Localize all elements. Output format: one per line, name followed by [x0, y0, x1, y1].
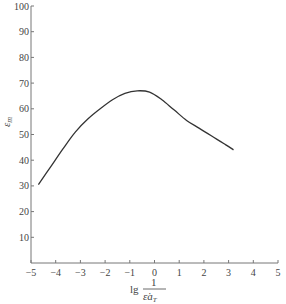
y-tick-label: 60: [19, 103, 29, 114]
x-tick-label: −2: [100, 267, 111, 278]
x-tick-label: 4: [251, 267, 256, 278]
y-tick-label: 40: [19, 155, 29, 166]
data-line: [38, 91, 233, 185]
y-tick-label: 90: [19, 26, 29, 37]
y-tick-label: 100: [14, 1, 29, 12]
svg-text:lg: lg: [130, 283, 139, 295]
x-tick-label: −4: [50, 267, 61, 278]
y-tick-label: 50: [19, 129, 29, 140]
x-tick-label: −3: [75, 267, 86, 278]
x-tick-label: −5: [26, 267, 37, 278]
y-tick-label: 80: [19, 52, 29, 63]
y-tick-label: 70: [19, 78, 29, 89]
x-tick-label: 5: [276, 267, 281, 278]
svg-text:ε̇aT: ε̇aT: [143, 290, 158, 304]
y-tick-label: 10: [19, 232, 29, 243]
svg-text:1: 1: [151, 276, 157, 288]
x-tick-label: 1: [177, 267, 182, 278]
x-axis-label: lg 1 ε̇aT: [130, 276, 166, 304]
y-axis-label: εm: [0, 117, 14, 127]
x-tick-label: −1: [124, 267, 135, 278]
y-tick-label: 20: [19, 206, 29, 217]
y-tick-label: 30: [19, 180, 29, 191]
x-tick-label: 3: [226, 267, 231, 278]
chart: −5−4−3−2−1012345 102030405060708090100 ε…: [0, 0, 286, 304]
axes: [31, 6, 278, 263]
x-tick-label: 2: [201, 267, 206, 278]
